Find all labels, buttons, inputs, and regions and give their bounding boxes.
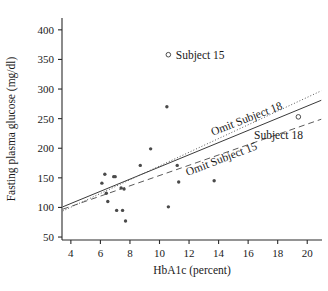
chart-figure: 50100150200250300350400 468101214161820 … xyxy=(0,0,328,291)
data-point xyxy=(115,209,118,212)
data-point xyxy=(165,105,168,108)
regression-line-solid xyxy=(63,100,322,207)
data-point xyxy=(103,173,106,176)
annotation-subject-18: Subject 18 xyxy=(254,129,303,142)
y-tick-label: 150 xyxy=(38,172,55,184)
data-point-open xyxy=(296,115,301,120)
y-tick-label: 50 xyxy=(43,231,55,243)
annotation-omit-subject-15: Omit Subject 15 xyxy=(184,139,259,178)
x-tick-label: 14 xyxy=(213,247,225,259)
y-tick-label: 300 xyxy=(38,83,55,95)
data-point xyxy=(105,192,108,195)
x-tick-label: 18 xyxy=(272,247,284,259)
scatter-plot: 50100150200250300350400 468101214161820 … xyxy=(0,0,328,291)
data-point xyxy=(100,181,103,184)
data-point xyxy=(119,186,122,189)
x-tick-label: 10 xyxy=(154,247,166,259)
data-point xyxy=(177,180,180,183)
x-tick-label: 16 xyxy=(243,247,255,259)
data-point-open xyxy=(166,52,171,57)
data-point xyxy=(212,179,215,182)
y-tick-label: 350 xyxy=(38,53,55,65)
y-tick-label: 400 xyxy=(38,24,55,36)
x-axis-ticks: 468101214161820 xyxy=(68,240,313,259)
chart-annotations: Subject 15Subject 18Omit Subject 18Omit … xyxy=(176,49,303,179)
y-axis-title: Fasting plasma glucose (mg/dl) xyxy=(5,56,18,201)
y-axis-ticks: 50100150200250300350400 xyxy=(38,24,63,243)
x-tick-label: 8 xyxy=(127,247,133,259)
data-point xyxy=(124,219,127,222)
data-point xyxy=(121,209,124,212)
x-tick-label: 12 xyxy=(184,247,195,259)
data-point xyxy=(149,147,152,150)
y-tick-label: 250 xyxy=(38,113,55,125)
x-tick-label: 4 xyxy=(68,247,74,259)
annotation-subject-15: Subject 15 xyxy=(176,49,225,62)
data-point xyxy=(113,175,116,178)
data-point xyxy=(106,200,109,203)
data-point xyxy=(176,164,179,167)
data-point xyxy=(122,187,125,190)
x-axis-title: HbA1c (percent) xyxy=(153,264,231,277)
y-tick-label: 200 xyxy=(38,142,55,154)
y-tick-label: 100 xyxy=(38,201,55,213)
x-tick-label: 20 xyxy=(302,247,314,259)
x-tick-label: 6 xyxy=(98,247,104,259)
data-point xyxy=(139,164,142,167)
data-point xyxy=(167,205,170,208)
